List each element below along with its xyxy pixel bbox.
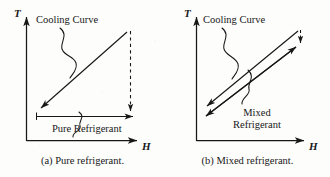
panel-mixed-refrigerant: T H Cooling Curve Mixed Refrigerant (b) … bbox=[165, 0, 330, 177]
y-axis-label-b: T bbox=[184, 8, 191, 19]
x-axis-label-a: H bbox=[142, 141, 151, 152]
annotation-refrigerant-a: Pure Refrigerant bbox=[52, 123, 122, 135]
refrigerant-line-b-arrow-end bbox=[206, 47, 296, 116]
y-axis-label-a: T bbox=[14, 8, 21, 19]
caption-panel-b: (b) Mixed refrigerant. bbox=[165, 155, 330, 167]
annotation-refrigerant-b-line2: Refrigerant bbox=[218, 119, 296, 131]
annotation-cooling-curve-a: Cooling Curve bbox=[36, 14, 98, 26]
leader-squiggle-cooling-curve-a bbox=[60, 28, 76, 78]
annotation-refrigerant-b-line1: Mixed bbox=[218, 107, 296, 119]
caption-panel-a: (a) Pure refrigerant. bbox=[0, 155, 165, 167]
leader-squiggle-cooling-curve-b bbox=[222, 28, 238, 79]
panel-a-graphics bbox=[0, 0, 165, 177]
figure-cooling-curves: T H Cooling Curve Pure Refrigerant (a) P… bbox=[0, 0, 330, 177]
panel-pure-refrigerant: T H Cooling Curve Pure Refrigerant (a) P… bbox=[0, 0, 165, 177]
panel-b-graphics bbox=[165, 0, 330, 177]
x-axis-label-b: H bbox=[309, 141, 318, 152]
annotation-cooling-curve-b: Cooling Curve bbox=[203, 14, 265, 26]
cooling-curve-line-b bbox=[207, 31, 298, 106]
cooling-curve-line-a bbox=[41, 32, 127, 108]
